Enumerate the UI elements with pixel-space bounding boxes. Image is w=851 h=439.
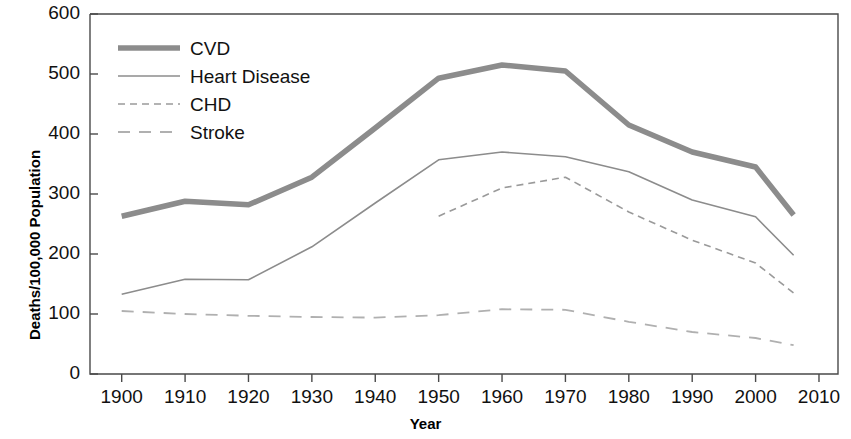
- series-line-chd: [439, 177, 794, 293]
- legend-label: Heart Disease: [190, 67, 310, 86]
- legend-swatch-icon: [118, 41, 180, 55]
- legend-item-chd: CHD: [118, 90, 310, 118]
- legend-swatch-icon: [118, 97, 180, 111]
- legend-item-heart-disease: Heart Disease: [118, 62, 310, 90]
- legend-label: CVD: [190, 39, 230, 58]
- chart-container: Deaths/100,000 Population Year 010020030…: [0, 0, 851, 439]
- legend-label: Stroke: [190, 123, 245, 142]
- series-line-heart-disease: [122, 152, 794, 294]
- legend-swatch-icon: [118, 69, 180, 83]
- chart-legend: CVDHeart DiseaseCHDStroke: [118, 34, 310, 146]
- legend-item-stroke: Stroke: [118, 118, 310, 146]
- legend-swatch-icon: [118, 125, 180, 139]
- legend-label: CHD: [190, 95, 231, 114]
- legend-item-cvd: CVD: [118, 34, 310, 62]
- series-line-stroke: [122, 309, 794, 345]
